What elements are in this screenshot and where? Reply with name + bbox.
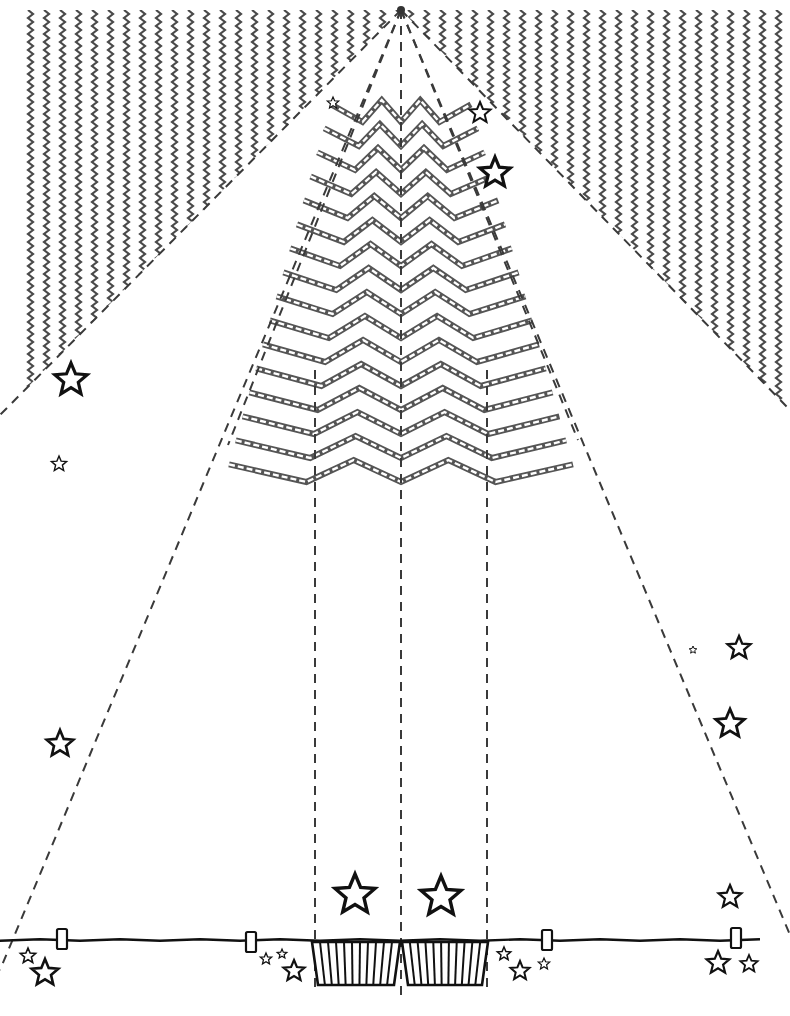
zigzag-line — [108, 10, 113, 426]
pot-stripe — [448, 942, 449, 985]
star-icon — [55, 363, 87, 394]
zigzag-line — [776, 10, 781, 426]
zigzag-line — [536, 10, 541, 426]
zigzag-background-right — [408, 10, 781, 426]
zigzag-line — [380, 10, 385, 426]
zigzag-line — [648, 10, 653, 426]
zigzag-line — [140, 10, 145, 426]
zigzag-line — [664, 10, 669, 426]
star-icon — [740, 955, 757, 971]
clothespin-clip — [542, 930, 552, 950]
star-icon — [51, 456, 66, 471]
star-icon — [707, 951, 730, 973]
star-icon — [470, 102, 491, 122]
star-icon — [728, 636, 751, 658]
zigzag-line — [552, 10, 557, 426]
zigzag-line — [76, 10, 81, 426]
zigzag-line — [44, 10, 49, 426]
star-icon — [284, 960, 305, 980]
clothespin-clip — [246, 932, 256, 952]
star-icon — [335, 874, 375, 912]
zigzag-line — [520, 10, 525, 426]
zigzag-line — [268, 10, 273, 426]
left-pot — [312, 942, 400, 985]
zigzag-line — [616, 10, 621, 426]
star-icon — [689, 646, 697, 653]
pot-stripe — [359, 942, 360, 985]
clothespin-clip — [57, 929, 67, 949]
star-icon — [32, 959, 59, 984]
star-icon — [277, 949, 287, 958]
clothespin-clip — [731, 928, 741, 948]
zigzag-line — [252, 10, 257, 426]
star-icon — [497, 947, 510, 960]
zigzag-line — [408, 10, 413, 426]
zigzag-line — [760, 10, 765, 426]
fold-lines — [0, 10, 790, 1000]
zigzag-line — [124, 10, 129, 426]
pop-up-tree-template — [0, 0, 790, 1016]
star-icon — [421, 876, 461, 914]
zigzag-line — [300, 10, 305, 426]
star-icon — [260, 953, 271, 964]
zigzag-line — [504, 10, 509, 426]
star-icon — [538, 958, 549, 969]
zigzag-line — [60, 10, 65, 426]
zigzag-line — [696, 10, 701, 426]
pot-stripe — [352, 942, 353, 985]
zigzag-line — [172, 10, 177, 426]
zigzag-line — [728, 10, 733, 426]
star-icon — [511, 961, 530, 979]
zigzag-line — [568, 10, 573, 426]
star-icon — [47, 730, 74, 755]
zigzag-line — [680, 10, 685, 426]
star-icon — [719, 885, 742, 907]
zigzag-line — [712, 10, 717, 426]
pot-stripe — [441, 942, 442, 985]
star-icon — [716, 709, 745, 736]
zigzag-line — [188, 10, 193, 426]
zigzag-line — [284, 10, 289, 426]
zigzag-line — [236, 10, 241, 426]
zigzag-line — [220, 10, 225, 426]
zigzag-line — [332, 10, 337, 426]
zigzag-line — [28, 10, 33, 426]
zigzag-line — [92, 10, 97, 426]
zigzag-line — [584, 10, 589, 426]
star-icon — [20, 948, 35, 963]
zigzag-line — [156, 10, 161, 426]
zigzag-line — [744, 10, 749, 426]
zigzag-line — [632, 10, 637, 426]
zigzag-line — [204, 10, 209, 426]
garland-line — [0, 939, 760, 941]
apex-point — [397, 6, 405, 14]
